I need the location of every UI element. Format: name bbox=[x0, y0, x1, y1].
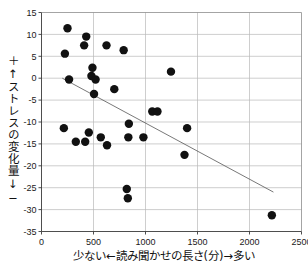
data-point bbox=[167, 67, 175, 75]
data-point bbox=[97, 133, 105, 141]
y-tick-label: 0 bbox=[31, 73, 36, 83]
x-tick-label: 0 bbox=[39, 237, 44, 247]
data-point bbox=[65, 75, 73, 83]
y-tick-label: -20 bbox=[23, 161, 36, 171]
y-axis-ticks: 151050-5-10-15-20-25-30-35 bbox=[23, 8, 41, 237]
data-point bbox=[124, 133, 132, 141]
data-point bbox=[91, 75, 99, 83]
data-point bbox=[183, 124, 191, 132]
scatter-chart-figure: ＋↑ストレスの変化量↓− 少ない←読み聞かせの長さ(分)→多い 151050-5… bbox=[0, 0, 308, 262]
y-tick-label: -10 bbox=[23, 117, 36, 127]
x-tick-label: 2000 bbox=[239, 237, 259, 247]
y-tick-label: 5 bbox=[31, 52, 36, 62]
data-point bbox=[81, 138, 89, 146]
data-point bbox=[82, 32, 90, 40]
x-tick-label: 500 bbox=[86, 237, 101, 247]
data-point bbox=[123, 185, 131, 193]
data-point bbox=[72, 138, 80, 146]
data-point bbox=[125, 120, 133, 128]
plot-area: 151050-5-10-15-20-25-30-35 0500100015002… bbox=[0, 0, 308, 262]
y-tick-label: -5 bbox=[28, 95, 36, 105]
data-point bbox=[103, 141, 111, 149]
data-point bbox=[119, 46, 127, 54]
x-axis-ticks: 05001000150020002500 bbox=[39, 232, 308, 247]
data-point bbox=[180, 151, 188, 159]
data-point bbox=[60, 124, 68, 132]
data-point bbox=[88, 63, 96, 71]
y-tick-label: 10 bbox=[26, 30, 36, 40]
data-point bbox=[61, 49, 69, 57]
data-point bbox=[268, 211, 276, 219]
y-tick-label: -35 bbox=[23, 227, 36, 237]
data-point bbox=[90, 90, 98, 98]
data-point bbox=[80, 41, 88, 49]
y-tick-label: -25 bbox=[23, 183, 36, 193]
data-point bbox=[85, 128, 93, 136]
y-tick-label: 15 bbox=[26, 8, 36, 18]
y-tick-label: -30 bbox=[23, 205, 36, 215]
y-tick-label: -15 bbox=[23, 139, 36, 149]
data-point bbox=[110, 85, 118, 93]
x-tick-label: 1500 bbox=[187, 237, 207, 247]
data-point bbox=[139, 133, 147, 141]
data-point bbox=[124, 194, 132, 202]
data-point bbox=[153, 107, 161, 115]
data-point bbox=[63, 24, 71, 32]
data-point bbox=[102, 41, 110, 49]
x-tick-label: 2500 bbox=[291, 237, 308, 247]
x-tick-label: 1000 bbox=[135, 237, 155, 247]
